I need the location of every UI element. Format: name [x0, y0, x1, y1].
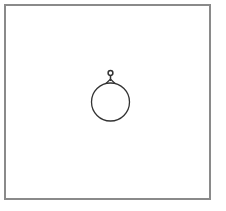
main-circle[interactable]: [92, 83, 130, 121]
diagram-canvas: [0, 0, 226, 211]
circle-with-knob[interactable]: [92, 71, 130, 121]
knob-handle[interactable]: [108, 71, 113, 76]
